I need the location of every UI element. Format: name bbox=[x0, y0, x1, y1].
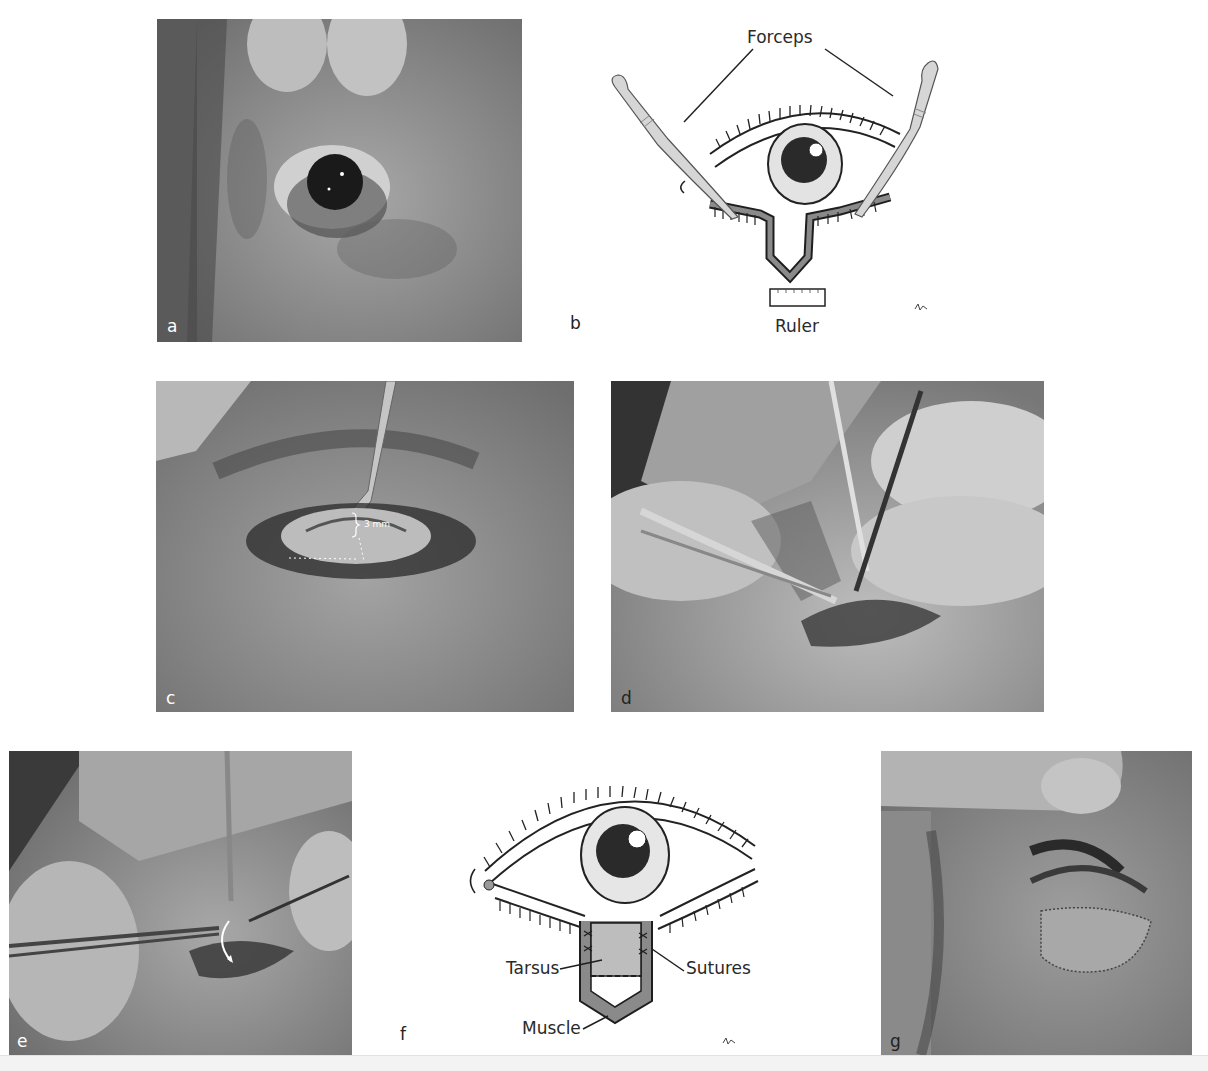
panel-label-c: c bbox=[166, 688, 175, 708]
tarsus-graft-diagram bbox=[390, 751, 830, 1055]
bottom-band bbox=[0, 1055, 1208, 1071]
panel-label-g: g bbox=[890, 1031, 901, 1051]
muscle-label: Muscle bbox=[522, 1018, 581, 1038]
forceps-eyelid-diagram bbox=[560, 19, 980, 342]
panel-label-f: f bbox=[400, 1024, 406, 1044]
panel-b-diagram: Forceps Ruler b bbox=[560, 19, 980, 342]
photo-a-image bbox=[157, 19, 522, 342]
panel-d-photo: d bbox=[611, 381, 1044, 712]
forceps-label: Forceps bbox=[747, 27, 813, 47]
tarsus-label: Tarsus bbox=[506, 958, 559, 978]
photo-g-image bbox=[881, 751, 1192, 1055]
ruler-label: Ruler bbox=[775, 316, 819, 336]
panel-a-photo: a bbox=[157, 19, 522, 342]
sutures-label: Sutures bbox=[686, 958, 751, 978]
photo-c-image bbox=[156, 381, 574, 712]
panel-f-diagram: Tarsus Sutures Muscle f bbox=[390, 751, 830, 1055]
panel-label-e: e bbox=[17, 1031, 27, 1051]
panel-c-photo: 3 mm c bbox=[156, 381, 574, 712]
panel-e-photo: e bbox=[9, 751, 352, 1055]
photo-e-image bbox=[9, 751, 352, 1055]
panel-label-a: a bbox=[167, 316, 177, 336]
panel-label-b: b bbox=[570, 313, 581, 333]
panel-label-d: d bbox=[621, 688, 632, 708]
photo-d-image bbox=[611, 381, 1044, 712]
measurement-annotation: 3 mm bbox=[364, 519, 390, 529]
panel-g-photo: g bbox=[881, 751, 1192, 1055]
